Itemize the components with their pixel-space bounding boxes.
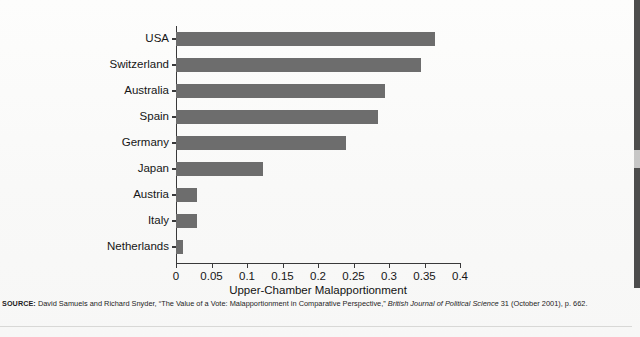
bar-row: Japan [176, 156, 460, 182]
bar-row: Italy [176, 208, 460, 234]
source-label: SOURCE: [2, 299, 36, 308]
y-axis-label-italy: Italy [148, 213, 169, 228]
y-axis-label-spain: Spain [140, 109, 169, 124]
x-axis-tick-label: 0.05 [200, 270, 222, 282]
source-note: SOURCE: David Samuels and Richard Snyder… [2, 298, 630, 309]
page-edge-artifact-bottom [634, 168, 640, 288]
bar-germany [176, 136, 346, 150]
x-axis-tick [247, 263, 248, 268]
x-axis-tick-label: 0.4 [452, 270, 468, 282]
x-axis-tick [212, 263, 213, 268]
bar-row: Netherlands [176, 234, 460, 260]
x-axis-tick [425, 263, 426, 268]
bar-row: Switzerland [176, 52, 460, 78]
x-axis-tick-label: 0.25 [342, 270, 364, 282]
y-axis-label-netherlands: Netherlands [107, 239, 169, 254]
x-axis-tick [283, 263, 284, 268]
page-edge-artifact-middle [634, 150, 640, 168]
bar-australia [176, 84, 385, 98]
source-journal-title: British Journal of Political Science [388, 299, 499, 308]
bar-netherlands [176, 240, 183, 254]
source-text-before: David Samuels and Richard Snyder, “The V… [36, 299, 388, 308]
x-axis-tick [318, 263, 319, 268]
x-axis-tick [460, 263, 461, 268]
source-text-after: 31 (October 2001), p. 662. [499, 299, 588, 308]
bar-row: Austria [176, 182, 460, 208]
bar-japan [176, 162, 263, 176]
y-axis-label-australia: Australia [124, 83, 169, 98]
horizontal-rule [0, 326, 632, 327]
x-axis-tick-label: 0.3 [381, 270, 397, 282]
bar-row: Australia [176, 78, 460, 104]
x-axis-tick-label: 0 [173, 270, 179, 282]
bar-austria [176, 188, 197, 202]
bar-italy [176, 214, 197, 228]
bar-spain [176, 110, 378, 124]
plot-area: USASwitzerlandAustraliaSpainGermanyJapan… [176, 26, 460, 260]
x-axis-tick-label: 0.2 [310, 270, 326, 282]
bar-switzerland [176, 58, 421, 72]
bar-chart: 00.050.10.150.20.250.30.350.4 USASwitzer… [0, 8, 520, 290]
bar-usa [176, 32, 435, 46]
x-axis-tick [389, 263, 390, 268]
x-axis-tick-label: 0.1 [239, 270, 255, 282]
y-axis-label-usa: USA [145, 31, 169, 46]
y-axis-label-austria: Austria [133, 187, 169, 202]
bar-row: USA [176, 26, 460, 52]
bar-row: Spain [176, 104, 460, 130]
x-axis-title: Upper-Chamber Malapportionment [176, 284, 460, 296]
bar-row: Germany [176, 130, 460, 156]
x-axis-tick [176, 263, 177, 268]
page-edge-artifact-top [634, 0, 640, 150]
y-axis-label-switzerland: Switzerland [110, 57, 169, 72]
x-axis-line: 00.050.10.150.20.250.30.350.4 [176, 263, 460, 264]
x-axis-tick-label: 0.35 [413, 270, 435, 282]
y-axis-label-germany: Germany [122, 135, 169, 150]
x-axis-tick-label: 0.15 [271, 270, 293, 282]
x-axis-tick [354, 263, 355, 268]
y-axis-label-japan: Japan [138, 161, 169, 176]
